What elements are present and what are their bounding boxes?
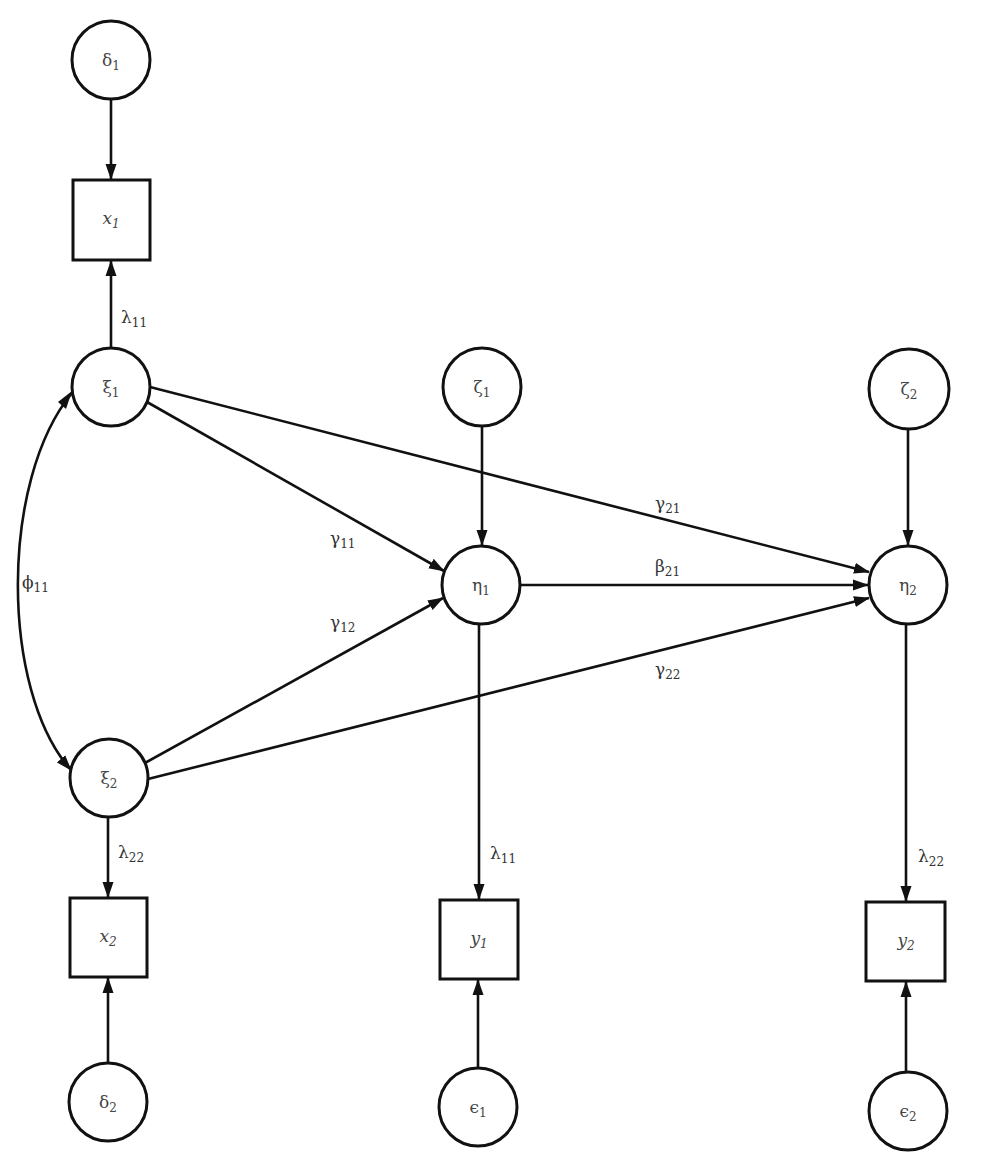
sem-path-diagram: δ1 x1 ξ1 ξ2 x2 δ2 ζ1 η1: [0, 0, 981, 1175]
node-delta1: δ1: [72, 21, 150, 99]
node-eta2: η2: [869, 546, 947, 624]
node-x1: x1: [73, 180, 150, 260]
label-phi11: ϕ11: [22, 572, 49, 595]
node-zeta1: ζ1: [443, 348, 521, 426]
node-eps1: ϵ1: [439, 1068, 517, 1146]
node-delta2: δ2: [69, 1063, 147, 1141]
node-xi1: ξ1: [72, 348, 150, 426]
node-y1: y1: [440, 900, 518, 979]
covariance-arrowhead-xi1: [58, 391, 72, 409]
node-x2: x2: [70, 898, 147, 977]
node-xi2: ξ2: [70, 739, 148, 817]
node-zeta2: ζ2: [869, 349, 949, 429]
node-eps2: ϵ2: [869, 1072, 947, 1150]
node-y2: y2: [866, 902, 945, 981]
label-lambda11-y: λ11: [490, 843, 516, 866]
label-gamma11: γ11: [330, 528, 355, 551]
label-lambda11-x: λ11: [121, 307, 147, 330]
label-beta21: β21: [655, 556, 680, 579]
label-gamma21: γ21: [655, 493, 680, 516]
label-gamma22: γ22: [655, 659, 680, 682]
label-gamma12: γ12: [330, 612, 355, 635]
node-eta1: η1: [442, 546, 520, 624]
edge-xi2-eta2: [148, 598, 869, 779]
label-lambda22-x: λ22: [118, 842, 144, 865]
edge-xi1-eta1: [147, 402, 444, 571]
edge-xi2-eta1: [145, 598, 443, 763]
label-lambda22-y: λ22: [918, 846, 944, 869]
